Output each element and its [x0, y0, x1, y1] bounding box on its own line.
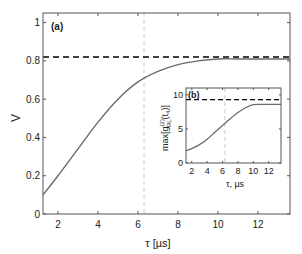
x-tick-label: 12 [264, 166, 274, 176]
y-tick-label: 0.4 [26, 132, 40, 143]
inset-y-axis-label: max[g(2)RL(t4)] [159, 105, 172, 151]
x-tick-label: 10 [212, 219, 224, 230]
x-tick-label: 6 [220, 166, 225, 176]
x-tick-label: 6 [135, 219, 141, 230]
inset-axes: 246810120510 [173, 88, 281, 176]
y-tick-label: 1 [34, 17, 40, 28]
x-tick-label: 8 [235, 166, 240, 176]
panel-b-label: (b) [188, 90, 200, 100]
x-tick-label: 4 [205, 166, 210, 176]
y-tick-label: 0 [34, 209, 40, 220]
y-tick-label: 0 [178, 158, 183, 168]
panel-a-label: (a) [51, 21, 63, 32]
x-tick-label: 8 [175, 219, 181, 230]
x-tick-label: 10 [248, 166, 258, 176]
x-tick-label: 4 [95, 219, 101, 230]
inset-x-axis-label: τ, µs [226, 179, 245, 189]
y-tick-label: 0.6 [26, 94, 40, 105]
svg-text:max[g(2)RL(t4)]: max[g(2)RL(t4)] [159, 105, 172, 151]
x-tick-label: 2 [55, 219, 61, 230]
chart: 2468101200.20.40.60.81 246810120510 (a) … [0, 0, 302, 254]
y-tick-label: 5 [178, 124, 183, 134]
y-tick-label: 0.8 [26, 55, 40, 66]
y-tick-label: 0.2 [26, 170, 40, 181]
x-axis-label: τ [µs] [145, 237, 170, 249]
x-tick-label: 2 [189, 166, 194, 176]
x-tick-label: 12 [252, 219, 264, 230]
y-axis-label: V [9, 114, 23, 122]
y-tick-label: 10 [173, 90, 183, 100]
